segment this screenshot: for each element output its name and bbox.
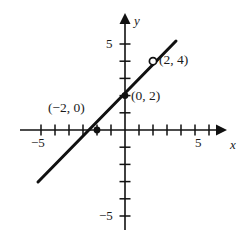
- y-axis-label: y: [134, 14, 140, 27]
- point-marker-endpoint-open-circle: [149, 58, 156, 65]
- x-axis-label: x: [230, 138, 236, 151]
- annotation-x-intercept: (−2, 0): [48, 101, 85, 115]
- y-axis-tick-label-negative-five: −5: [99, 209, 113, 222]
- annotation-y-intercept: (0, 2): [131, 89, 160, 103]
- annotation-endpoint: (2, 4): [159, 53, 188, 67]
- x-axis-arrow-icon: [216, 125, 227, 136]
- y-axis-tick-label-positive-five: 5: [106, 37, 113, 50]
- coordinate-plane-graph: −5 5 5 −5 x y (−2, 0) (0, 2) (2, 4): [0, 0, 246, 244]
- graph-canvas: [0, 0, 246, 244]
- x-axis-tick-label-negative-five: −5: [31, 136, 45, 149]
- x-axis-tick-label-positive-five: 5: [195, 136, 202, 149]
- point-marker-y-intercept: [122, 92, 129, 99]
- y-axis-arrow-icon: [120, 13, 131, 24]
- point-marker-x-intercept: [94, 127, 101, 134]
